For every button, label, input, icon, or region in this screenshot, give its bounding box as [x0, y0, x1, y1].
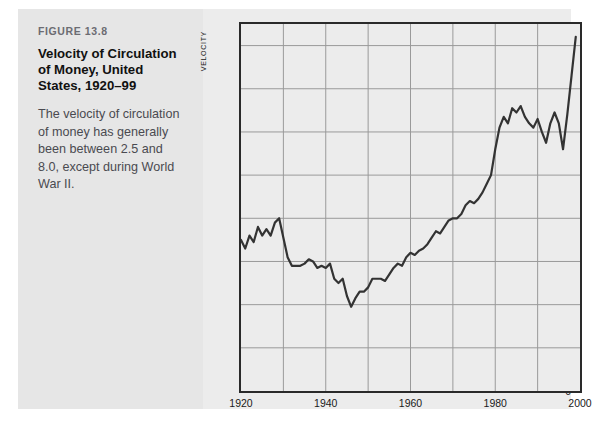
x-axis-tick-label: 1980: [484, 397, 507, 409]
line-chart-svg: [241, 24, 580, 391]
chart-area: VELOCITY 01.02.03.04.05.06.07.08.0 19201…: [203, 9, 571, 409]
vertical-gridlines: [283, 24, 537, 391]
figure-container: FIGURE 13.8 Velocity of Circulation of M…: [18, 9, 571, 409]
figure-title: Velocity of Circulation of Money, United…: [38, 46, 187, 94]
y-axis-title: VELOCITY: [200, 0, 207, 31]
x-axis-tick-label: 1960: [399, 397, 422, 409]
figure-number-label: FIGURE 13.8: [38, 25, 187, 37]
plot-frame: [239, 22, 582, 393]
velocity-line: [241, 37, 576, 307]
x-axis-tick-label: 1920: [229, 397, 252, 409]
caption-panel: FIGURE 13.8 Velocity of Circulation of M…: [18, 9, 203, 409]
x-axis-tick-label: 2000: [568, 397, 591, 409]
x-axis-tick-label: 1940: [314, 397, 337, 409]
figure-description: The velocity of circulation of money has…: [38, 106, 187, 194]
y-axis-title-text: VELOCITY: [200, 31, 207, 95]
